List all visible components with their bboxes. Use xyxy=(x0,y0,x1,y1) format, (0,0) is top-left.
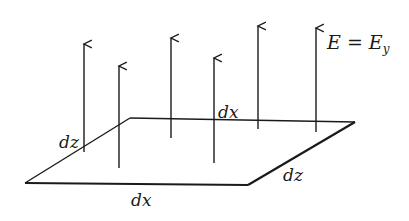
label-dz-left: dz xyxy=(59,134,79,151)
field-symbol: E xyxy=(327,31,341,53)
label-dx-top: dx xyxy=(218,104,238,121)
field-flux-diagram: E = Ey dx dz dz dx xyxy=(0,0,409,221)
label-dz-right: dz xyxy=(283,167,303,184)
edge-bottom-dx xyxy=(25,183,248,185)
field-label: E = Ey xyxy=(327,33,390,55)
field-arrows xyxy=(84,26,316,168)
field-subscript: y xyxy=(383,42,390,56)
edge-top-dx xyxy=(130,118,355,122)
field-equals: = E xyxy=(341,31,383,53)
label-dx-bottom: dx xyxy=(131,192,151,209)
